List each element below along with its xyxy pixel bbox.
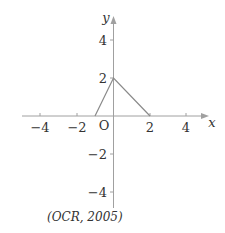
y-axis bbox=[111, 16, 117, 208]
x-tick-label: −2 bbox=[67, 120, 86, 135]
source-caption: (OCR, 2005) bbox=[47, 210, 123, 224]
y-axis-label: y bbox=[101, 10, 110, 25]
x-tick-label: 2 bbox=[146, 120, 154, 135]
origin-label: O bbox=[99, 118, 110, 133]
x-tick-label: −4 bbox=[30, 120, 49, 135]
y-axis-arrow-icon bbox=[111, 16, 117, 24]
y-tick-label: −2 bbox=[88, 147, 107, 162]
x-tick-label: 4 bbox=[182, 120, 190, 135]
x-axis-label: x bbox=[208, 115, 216, 130]
y-tick-label: 2 bbox=[99, 71, 107, 86]
graph-plot: −4 −2 2 4 4 2 −2 −4 O x y bbox=[0, 0, 225, 233]
y-tick-label: −4 bbox=[88, 185, 107, 200]
y-tick-label: 4 bbox=[99, 33, 107, 48]
x-axis bbox=[22, 113, 209, 119]
